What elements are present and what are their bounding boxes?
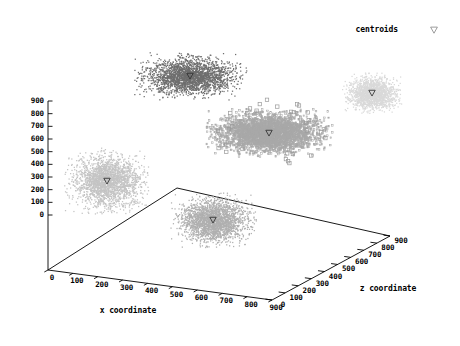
data-point xyxy=(220,193,221,194)
data-point xyxy=(174,70,175,71)
data-point xyxy=(118,178,119,179)
data-point xyxy=(350,92,351,93)
x-axis-tick-label-500: 500 xyxy=(170,291,183,299)
data-point xyxy=(116,212,117,213)
data-point xyxy=(192,238,193,239)
data-point xyxy=(221,225,222,226)
data-point xyxy=(197,234,198,235)
data-point xyxy=(211,62,212,63)
data-point xyxy=(346,89,347,90)
data-point xyxy=(112,177,113,178)
data-point xyxy=(226,226,227,227)
data-point xyxy=(210,60,211,61)
data-point xyxy=(132,198,133,199)
data-point xyxy=(90,202,91,203)
data-point xyxy=(184,214,185,215)
data-point xyxy=(119,205,120,206)
data-point xyxy=(174,75,175,76)
data-point xyxy=(214,131,216,133)
data-point xyxy=(208,213,209,214)
data-point xyxy=(228,74,229,75)
data-point xyxy=(332,132,334,134)
data-point xyxy=(197,203,198,204)
data-point xyxy=(129,177,130,178)
data-point xyxy=(92,192,93,193)
data-point xyxy=(356,99,357,100)
data-point xyxy=(237,225,238,226)
data-point xyxy=(224,141,226,143)
data-point xyxy=(208,83,209,84)
data-point xyxy=(181,55,182,56)
data-point xyxy=(370,99,371,100)
data-point xyxy=(163,77,164,78)
data-point xyxy=(80,179,81,180)
data-point xyxy=(73,173,74,174)
data-point xyxy=(168,81,169,82)
data-point xyxy=(342,89,343,90)
data-point xyxy=(233,203,234,204)
data-point xyxy=(306,116,308,118)
data-point xyxy=(227,193,228,194)
data-point xyxy=(256,219,257,220)
data-point xyxy=(211,202,212,203)
data-point xyxy=(131,184,132,185)
data-point xyxy=(203,209,204,210)
data-point xyxy=(160,91,161,92)
data-point xyxy=(131,195,132,196)
data-point xyxy=(184,231,185,232)
data-point xyxy=(197,66,198,67)
data-point xyxy=(220,84,221,85)
data-point xyxy=(72,179,73,180)
data-point xyxy=(215,91,216,92)
data-point xyxy=(208,72,209,73)
data-point xyxy=(178,86,179,87)
data-point xyxy=(178,221,179,222)
data-point xyxy=(375,77,376,78)
data-point xyxy=(172,208,173,209)
data-point xyxy=(214,229,215,230)
data-point xyxy=(186,92,187,93)
data-point xyxy=(151,83,152,84)
data-point xyxy=(113,179,114,180)
data-point xyxy=(93,163,94,164)
data-point xyxy=(101,200,102,201)
data-point xyxy=(130,185,131,186)
data-point xyxy=(367,78,368,79)
data-point xyxy=(242,78,243,79)
data-point xyxy=(108,205,109,206)
data-point xyxy=(286,110,288,112)
data-point xyxy=(171,84,172,85)
data-point xyxy=(218,89,219,90)
data-point xyxy=(194,87,195,88)
data-point xyxy=(171,68,172,69)
data-point xyxy=(349,82,350,83)
y-axis-tick-label-700: 700 xyxy=(31,123,44,131)
data-point xyxy=(233,227,234,228)
data-point xyxy=(200,225,201,226)
data-point xyxy=(351,95,352,96)
data-point xyxy=(91,173,92,174)
data-point xyxy=(195,200,196,201)
data-point xyxy=(378,105,379,106)
data-point xyxy=(216,144,218,146)
data-point xyxy=(117,161,118,162)
data-point xyxy=(80,188,81,189)
data-point xyxy=(181,216,182,217)
data-point xyxy=(194,85,195,86)
data-point xyxy=(204,219,205,220)
data-point xyxy=(202,93,203,94)
data-point xyxy=(109,159,110,160)
data-point xyxy=(198,88,199,89)
data-point xyxy=(83,208,84,209)
data-point xyxy=(388,101,389,102)
data-point xyxy=(193,220,194,221)
data-point xyxy=(398,90,399,91)
data-point xyxy=(383,97,384,98)
data-point xyxy=(231,220,232,221)
data-point xyxy=(229,115,231,117)
data-point xyxy=(94,170,95,171)
data-point xyxy=(245,239,246,240)
data-point xyxy=(183,213,184,214)
data-point xyxy=(221,204,222,205)
data-point xyxy=(392,97,393,98)
